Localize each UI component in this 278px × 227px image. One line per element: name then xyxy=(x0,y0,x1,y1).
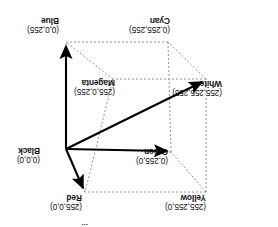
cube-axis-arrows xyxy=(66,46,202,188)
edge-magenta-blue xyxy=(66,42,113,79)
axis-black-to-red xyxy=(66,149,83,188)
cube-dashed-edges xyxy=(66,42,206,192)
cropped-caption-text: ... xyxy=(81,222,88,227)
edge-yellow-green xyxy=(171,152,206,192)
cropped-caption-strip: ... xyxy=(0,217,278,227)
cube-geometry xyxy=(0,0,278,227)
rgb-color-cube-figure: (255,255,0) Yellow (255,0,0) Red (0,255,… xyxy=(0,0,278,227)
edge-white-cyan xyxy=(168,42,206,79)
